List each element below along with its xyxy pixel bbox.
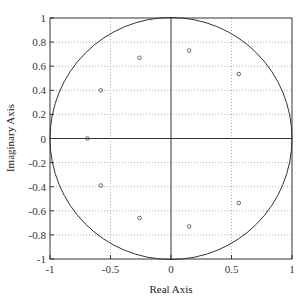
x-tick-label: 1 [289, 263, 295, 275]
x-axis-label: Real Axis [149, 283, 192, 295]
pole-marker [99, 89, 103, 93]
y-tick-label: -0.4 [29, 181, 47, 193]
y-tick-label: -0.6 [29, 205, 47, 217]
pole-marker [237, 201, 241, 205]
pole-zero-plot: -1-0.500.51-1-0.8-0.6-0.4-0.200.20.40.60… [0, 0, 305, 304]
pole-marker [138, 56, 142, 60]
pole-marker [138, 216, 142, 220]
y-tick-label: -0.8 [29, 229, 47, 241]
zero-axis-lines [50, 18, 292, 259]
pole-marker [187, 225, 191, 229]
pole-marker [99, 184, 103, 188]
y-tick-label: 1 [41, 12, 47, 24]
y-tick-label: 0.8 [32, 36, 46, 48]
y-tick-label: 0.2 [32, 108, 46, 120]
y-tick-label: 0.4 [32, 84, 46, 96]
x-tick-label: 0.5 [225, 263, 239, 275]
y-tick-label: -0.2 [29, 157, 46, 169]
pole-marker [237, 72, 241, 76]
y-tick-label: -1 [37, 253, 46, 265]
x-tick-label: -0.5 [102, 263, 120, 275]
y-axis-label: Imaginary Axis [4, 104, 16, 172]
y-tick-label: 0 [41, 133, 47, 145]
x-tick-label: 0 [168, 263, 174, 275]
y-tick-label: 0.6 [32, 60, 46, 72]
x-tick-label: -1 [45, 263, 54, 275]
pole-marker [187, 49, 191, 53]
